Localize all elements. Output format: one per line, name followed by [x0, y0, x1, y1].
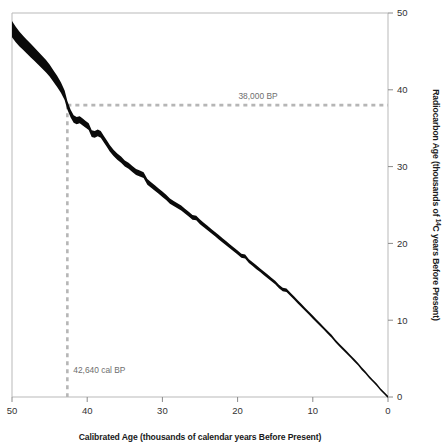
x-axis-ticks: 50403020100 [7, 397, 391, 416]
calibrated-age-annotation-label: 42,640 cal BP [73, 365, 126, 375]
y-tick-label: 0 [397, 391, 402, 402]
chart-canvas: 50403020100 01020304050 38,000 BP 42,640… [0, 0, 444, 448]
x-tick-label: 30 [157, 405, 168, 416]
y-tick-label: 20 [397, 238, 408, 249]
y-axis-title: Radiocarbon Age (thousands of 14C years … [431, 89, 442, 321]
y-axis-title-part2: C years Before Present) [431, 226, 441, 321]
x-tick-label: 0 [385, 405, 390, 416]
y-tick-label: 10 [397, 315, 408, 326]
x-tick-label: 40 [82, 405, 93, 416]
y-axis-title-part1: Radiocarbon Age (thousands of [431, 89, 441, 218]
y-tick-label: 30 [397, 161, 408, 172]
x-tick-label: 10 [308, 405, 319, 416]
y-tick-label: 50 [397, 7, 408, 18]
y-axis-ticks: 01020304050 [388, 7, 408, 402]
x-tick-label: 50 [7, 405, 18, 416]
radiocarbon-age-annotation-label: 38,000 BP [238, 91, 278, 101]
radiocarbon-calibration-chart: 50403020100 01020304050 38,000 BP 42,640… [0, 0, 444, 448]
x-axis-title: Calibrated Age (thousands of calendar ye… [79, 432, 322, 442]
annotation-guides [67, 105, 388, 397]
x-tick-label: 20 [232, 405, 243, 416]
y-tick-label: 40 [397, 84, 408, 95]
